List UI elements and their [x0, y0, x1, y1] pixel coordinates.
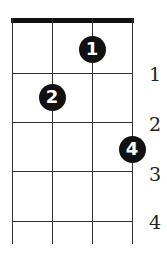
finger-dot-2: 2: [39, 84, 66, 111]
fret-line-3: [12, 171, 133, 172]
fret-number-4: 4: [146, 212, 164, 232]
fret-number-3: 3: [146, 164, 164, 184]
fret-line-2: [12, 122, 133, 123]
chord-diagram: 1 2 3 4 1 2 4: [0, 0, 167, 256]
string-1: [12, 18, 13, 244]
finger-dot-1: 1: [79, 36, 106, 63]
fret-line-4: [12, 221, 133, 222]
fret-line-1: [12, 73, 133, 74]
finger-dot-4: 4: [119, 136, 146, 163]
string-4: [132, 18, 133, 244]
fret-number-1: 1: [146, 64, 164, 84]
nut: [11, 18, 134, 23]
string-2: [52, 18, 53, 244]
fret-number-2: 2: [146, 114, 164, 134]
